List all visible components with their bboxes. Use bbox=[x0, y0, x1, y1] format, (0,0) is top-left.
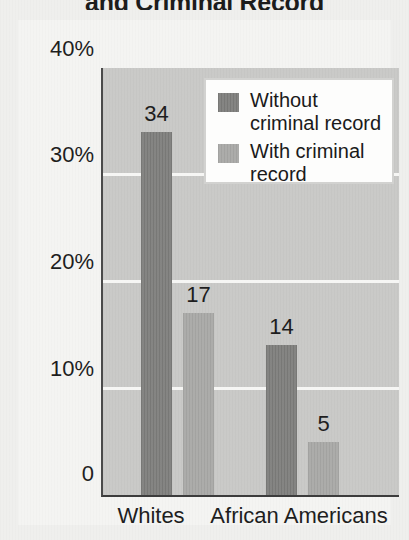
y-tick-30: 30% bbox=[24, 142, 94, 168]
value-label-african-americans-with: 5 bbox=[301, 411, 346, 437]
page-background: and Criminal Record 40% 30% 20% 10% 0 34… bbox=[0, 0, 409, 540]
legend-label-with-criminal-record: With criminal record bbox=[250, 140, 382, 186]
y-tick-20: 20% bbox=[24, 249, 94, 275]
bar-african-americans-without-criminal-record[interactable] bbox=[266, 345, 297, 495]
bar-whites-with-criminal-record[interactable] bbox=[183, 313, 214, 495]
chart-legend: Without criminal record With criminal re… bbox=[204, 78, 394, 184]
legend-label-without-criminal-record: Without criminal record bbox=[250, 89, 382, 135]
chart-title: and Criminal Record bbox=[0, 0, 409, 10]
value-label-whites-without: 34 bbox=[134, 101, 179, 127]
x-tick-whites: Whites bbox=[101, 503, 201, 529]
bar-whites-without-criminal-record[interactable] bbox=[141, 132, 172, 495]
legend-swatch-dark-icon bbox=[218, 93, 239, 112]
y-tick-10: 10% bbox=[24, 356, 94, 382]
value-label-african-americans-without: 14 bbox=[259, 314, 304, 340]
y-tick-0: 0 bbox=[24, 461, 94, 487]
value-label-whites-with: 17 bbox=[176, 282, 221, 308]
y-tick-40: 40% bbox=[24, 36, 94, 62]
legend-item-with-criminal-record[interactable]: With criminal record bbox=[218, 140, 392, 186]
chart-panel: 40% 30% 20% 10% 0 34 17 14 5 Whites Afri… bbox=[18, 20, 391, 525]
legend-item-without-criminal-record[interactable]: Without criminal record bbox=[218, 89, 392, 135]
bar-african-americans-with-criminal-record[interactable] bbox=[308, 442, 339, 495]
y-axis: 40% 30% 20% 10% 0 bbox=[18, 20, 94, 525]
x-tick-african-americans: African Americans bbox=[201, 503, 397, 529]
legend-swatch-light-icon bbox=[218, 144, 239, 163]
